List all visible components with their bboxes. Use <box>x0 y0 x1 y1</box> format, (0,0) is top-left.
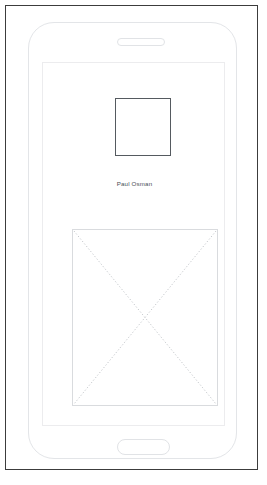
profile-name-label: Paul Osman <box>43 180 226 188</box>
image-placeholder[interactable] <box>72 229 218 406</box>
avatar-placeholder[interactable] <box>115 98 171 156</box>
smartphone-frame: Paul Osman <box>28 22 237 459</box>
home-button[interactable] <box>117 439 170 455</box>
phone-screen: Paul Osman <box>42 62 225 426</box>
earpiece-speaker-slot <box>117 38 165 46</box>
page-frame: Paul Osman <box>5 5 258 470</box>
image-placeholder-cross-icon <box>73 230 217 405</box>
